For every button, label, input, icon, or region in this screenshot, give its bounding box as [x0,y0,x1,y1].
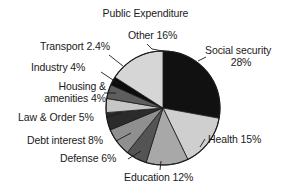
slice-label-social-security: Social security 28% [205,45,291,68]
slice-label-housing-line1: Housing & [58,80,106,92]
slice-label-other: Other 16% [128,30,177,42]
slice-label-housing-line2: amenities 4% [44,92,106,104]
slice-label-defense: Defense 6% [60,153,116,165]
leader-transport [109,55,123,66]
slice-label-health: Health 15% [208,134,261,146]
slice-label-housing-amenities: Housing & amenities 4% [20,81,106,104]
pie-slice-group [106,51,220,165]
slice-label-industry: Industry 4% [31,62,85,74]
slice-label-transport: Transport 2.4% [40,41,110,53]
slice-label-debt-interest: Debt interest 8% [27,135,103,147]
slice-label-law-order: Law & Order 5% [18,112,94,124]
pie-chart: Public Expenditure Other 16% Social secu… [0,0,291,195]
slice-label-social-security-name: Social security [205,44,271,56]
slice-label-social-security-pct: 28% [205,57,277,69]
slice-label-education: Education 12% [124,172,193,184]
